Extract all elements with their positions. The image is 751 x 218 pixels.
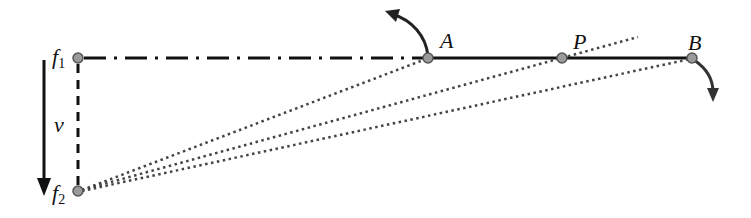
label-f1-sub: 1	[58, 56, 65, 71]
point-f2	[73, 186, 83, 196]
label-f2: f2	[52, 182, 65, 207]
point-p	[557, 53, 567, 63]
label-f2-sub: 2	[58, 192, 65, 207]
ray-f2-p-dotted	[82, 37, 638, 190]
point-f1	[73, 53, 83, 63]
label-a: A	[440, 30, 453, 52]
diagram-canvas: f1 f2 v A P B	[0, 0, 751, 218]
rotation-arrow-a	[392, 14, 428, 56]
point-a	[423, 53, 433, 63]
label-p: P	[573, 31, 586, 53]
ray-f2-b-dotted	[82, 59, 690, 191]
rotation-arrow-b	[694, 60, 713, 92]
rotation-arrowhead-a-icon	[385, 9, 400, 22]
label-f1: f1	[52, 46, 65, 71]
velocity-arrowhead-icon	[37, 178, 51, 196]
ray-f2-a-dotted	[82, 59, 426, 190]
label-b: B	[688, 32, 701, 54]
label-v: v	[54, 114, 64, 136]
rotation-arrowhead-b-icon	[707, 88, 719, 102]
